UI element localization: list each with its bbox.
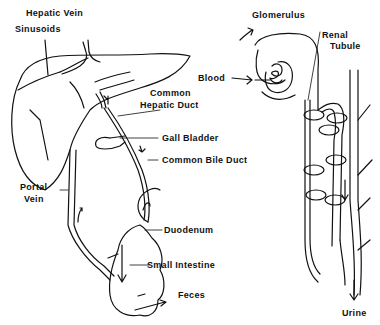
label-duodenum: Duodenum: [164, 225, 213, 235]
label-small-intestine: Small Intestine: [147, 260, 215, 270]
label-glomerulus: Glomerulus: [252, 10, 305, 20]
label-sinusoids: Sinusoids: [15, 24, 61, 34]
label-renal-tubule-1: Renal: [322, 30, 348, 40]
label-blood: Blood: [198, 73, 225, 83]
label-common-bile-duct: Common Bile Duct: [162, 155, 247, 165]
collecting-duct: [342, 70, 372, 300]
label-portal-vein-1: Portal: [20, 182, 47, 192]
sinusoid-lines: [18, 40, 134, 160]
blood-arrow: [232, 76, 252, 84]
liver-outline: [12, 54, 190, 190]
label-gall-bladder: Gall Bladder: [162, 133, 219, 143]
duodenum-intestine: [108, 188, 166, 315]
label-portal-vein-2: Vein: [24, 194, 44, 204]
label-common-hepatic-duct-2: Hepatic Duct: [140, 100, 199, 110]
label-common-hepatic-duct-1: Common: [150, 88, 191, 98]
portal-vein: [68, 150, 114, 280]
common-bile-duct: [104, 108, 149, 222]
label-hepatic-vein: Hepatic Vein: [26, 8, 83, 18]
label-renal-tubule-2: Tubule: [330, 41, 361, 51]
label-feces: Feces: [178, 290, 205, 300]
renal-tubule: [304, 100, 347, 285]
label-urine: Urine: [342, 308, 367, 318]
glomerulus-capsule: [240, 28, 318, 110]
